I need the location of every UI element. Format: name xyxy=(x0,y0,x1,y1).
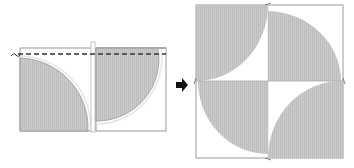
right-panel xyxy=(194,3,345,160)
left-panel xyxy=(11,42,166,132)
right-arrow-icon xyxy=(176,78,188,92)
quilt-diagram xyxy=(0,0,354,168)
unit-right xyxy=(96,47,166,131)
unit-left xyxy=(20,48,93,131)
seam-allowance xyxy=(91,42,95,132)
